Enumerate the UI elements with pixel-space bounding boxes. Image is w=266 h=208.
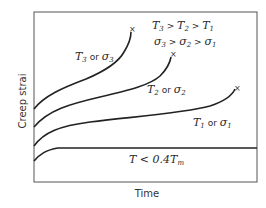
rupture-mark-t3: × (129, 25, 136, 34)
stress-order-annotation: σ3 > σ2 > σ1 (154, 35, 216, 49)
curve-t3 (34, 32, 131, 109)
curve-low-temp-label: T < 0.4Tm (129, 153, 184, 167)
x-axis-label: Time (134, 188, 159, 199)
curve-t1-label: T1 or σ1 (193, 116, 232, 130)
creep-curve-diagram: × × × T3 > T2 > T1 σ3 > σ2 > σ1 T3 or σ3… (0, 0, 266, 208)
rupture-mark-t1: × (234, 84, 241, 93)
rupture-mark-t2: × (170, 50, 177, 59)
y-axis-label: Creep strai (17, 74, 28, 129)
curve-t2-label: T2 or σ2 (147, 83, 186, 97)
curve-t3-label: T3 or σ3 (75, 50, 114, 64)
temperature-order-annotation: T3 > T2 > T1 (152, 19, 214, 33)
